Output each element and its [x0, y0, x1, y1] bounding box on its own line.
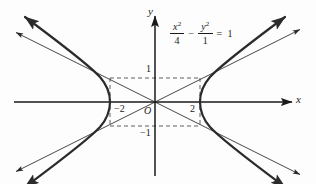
- hyperbola-plot-canvas: [0, 0, 316, 184]
- equation-second-numerator: y2: [198, 20, 212, 33]
- x-tick-label-two: 2: [190, 104, 195, 114]
- y-tick-label-one: 1: [146, 64, 151, 74]
- equation-equals-sign: =: [217, 28, 223, 39]
- equation-first-numerator-exponent: 2: [178, 20, 182, 28]
- x-tick-label-negative-two: −2: [114, 104, 125, 114]
- left-branch-lower: [25, 102, 110, 184]
- asymptote-positive-slope-left: [16, 102, 155, 172]
- x-axis-label: x: [296, 94, 301, 105]
- equation-right-hand-side: 1: [227, 28, 232, 39]
- y-axis-label: y: [148, 6, 153, 17]
- equation-annotation: x2 4 − y2 1 = 1: [168, 20, 233, 46]
- equation-second-denominator: 1: [200, 34, 211, 46]
- equation-first-fraction: x2 4: [170, 20, 184, 46]
- equation-first-denominator: 4: [172, 34, 183, 46]
- y-tick-label-negative-one: −1: [140, 128, 151, 138]
- equation-first-numerator: x2: [170, 20, 184, 33]
- equation-minus-operator: −: [188, 28, 194, 39]
- equation-second-fraction: y2 1: [198, 20, 212, 46]
- equation-second-numerator-exponent: 2: [206, 20, 210, 28]
- origin-label: O: [144, 106, 151, 116]
- asymptote-negative-slope-left: [16, 33, 155, 103]
- hyperbola-figure: x y O −2 2 1 −1 x2 4 − y2 1 = 1: [0, 0, 316, 184]
- right-branch-lower: [200, 102, 285, 184]
- asymptote-negative-slope-right: [155, 102, 300, 175]
- left-branch-upper: [25, 17, 110, 102]
